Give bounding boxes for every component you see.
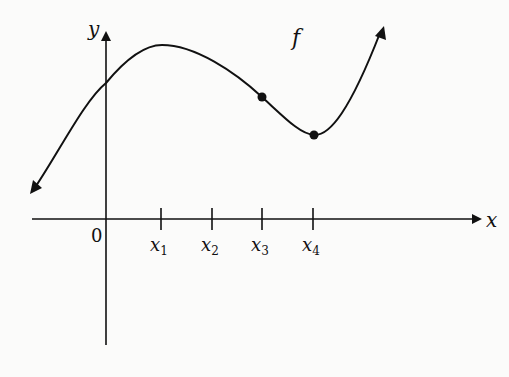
tick-label-x4: x4: [302, 234, 320, 258]
x-axis-label: x: [486, 208, 497, 232]
curve-right-arrow-icon: [375, 26, 386, 40]
point-x3: [258, 93, 267, 102]
function-label: f: [290, 25, 304, 50]
y-axis-label: y: [87, 17, 100, 41]
tick-label-x1: x1: [150, 234, 168, 258]
origin-label: 0: [91, 225, 102, 246]
tick-label-x2: x2: [201, 234, 219, 258]
tick-label-x3: x3: [251, 234, 269, 258]
tick-labels: x1 x2 x3 x4: [150, 234, 320, 258]
point-x4-min: [310, 131, 319, 140]
function-graph: y x 0 f x1 x2 x3 x4: [0, 0, 509, 377]
curve-left-arrow-icon: [30, 180, 42, 194]
curve-f: [36, 33, 380, 186]
